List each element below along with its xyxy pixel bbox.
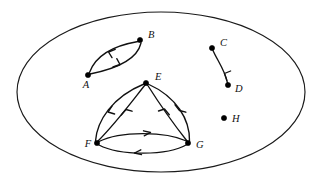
vertex-label-c: C bbox=[220, 37, 228, 48]
vertex-dot-g bbox=[185, 140, 190, 145]
vertex-dot-a bbox=[85, 72, 90, 77]
vertex-label-d: D bbox=[234, 83, 243, 94]
vertex-label-h: H bbox=[231, 113, 241, 124]
vertex-dot-e bbox=[143, 80, 148, 85]
vertex-dot-d bbox=[225, 82, 230, 87]
vertex-dot-b bbox=[137, 37, 142, 42]
directed-graph-figure: A B C D E F G bbox=[0, 0, 317, 183]
vertex-label-g: G bbox=[196, 139, 204, 150]
set-boundary-ellipse bbox=[17, 12, 305, 172]
vertex-dot-f bbox=[94, 140, 99, 145]
vertex-label-b: B bbox=[148, 29, 155, 40]
vertex-dot-c bbox=[209, 45, 214, 50]
graph-canvas: A B C D E F G bbox=[0, 0, 317, 183]
vertex-label-a: A bbox=[82, 79, 90, 90]
vertex-label-f: F bbox=[84, 138, 92, 149]
vertex-dot-h bbox=[221, 115, 226, 120]
vertex-label-e: E bbox=[154, 71, 162, 82]
